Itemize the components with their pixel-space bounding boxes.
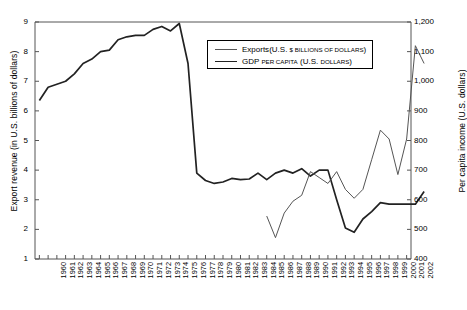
x-axis-tick-1970: 1970	[147, 262, 156, 278]
y-axis-left-tick-6: 6	[2, 106, 28, 115]
y-axis-right-tick-900: 900	[414, 106, 448, 115]
y-axis-left-tick-7: 7	[2, 76, 28, 85]
y-axis-left-tick-1: 1	[2, 254, 28, 263]
legend-swatch-gdp-per-capita	[215, 61, 237, 62]
chart-container: Export revenue (in U.S. billions of doll…	[0, 0, 467, 310]
y-axis-left-tick-5: 5	[2, 136, 28, 145]
legend-item-exports: Exports(U.S. $ billions of dollars)	[215, 44, 366, 55]
x-axis-tick-1962: 1962	[77, 262, 86, 278]
y-axis-left-tick-9: 9	[2, 17, 28, 26]
legend-label-exports: Exports(U.S. $ billions of dollars)	[242, 45, 366, 54]
y-axis-right-ticks	[407, 22, 411, 259]
y-axis-left-tick-8: 8	[2, 47, 28, 56]
x-axis-tick-1983: 1983	[260, 262, 269, 278]
y-axis-right-tick-1000: 1,000	[414, 76, 448, 85]
x-axis-tick-1995: 1995	[365, 262, 374, 278]
legend-label-gdp-per-capita: GDP per capita (U.S. dollars)	[242, 57, 352, 66]
x-axis-tick-1971: 1971	[156, 262, 165, 278]
legend-item-gdp-per-capita: GDP per capita (U.S. dollars)	[215, 56, 352, 67]
x-axis-tick-1960: 1960	[59, 262, 68, 278]
legend-swatch-exports	[215, 49, 237, 50]
x-axis-ticks	[39, 255, 406, 259]
x-axis-tick-1991: 1991	[330, 262, 339, 278]
x-axis-tick-1990: 1990	[322, 262, 331, 278]
x-axis-tick-1999: 1999	[400, 262, 409, 278]
x-axis-tick-1976: 1976	[199, 262, 208, 278]
y-axis-left-ticks	[35, 22, 39, 259]
x-axis-tick-1963: 1963	[86, 262, 95, 278]
x-axis-tick-1964: 1964	[94, 262, 103, 278]
x-axis-tick-1998: 1998	[392, 262, 401, 278]
x-axis-tick-1975: 1975	[190, 262, 199, 278]
x-axis-tick-1979: 1979	[225, 262, 234, 278]
y-axis-right-tick-800: 800	[414, 136, 448, 145]
x-axis-tick-1982: 1982	[252, 262, 261, 278]
x-axis-tick-1980: 1980	[234, 262, 243, 278]
x-axis-tick-1994: 1994	[357, 262, 366, 278]
y-axis-right-tick-500: 500	[414, 224, 448, 233]
y-axis-left-tick-3: 3	[2, 195, 28, 204]
y-axis-right-tick-600: 600	[414, 195, 448, 204]
x-axis-tick-1966: 1966	[112, 262, 121, 278]
y-axis-left-tick-4: 4	[2, 165, 28, 174]
y-axis-right-tick-1200: 1,200	[414, 17, 448, 26]
x-axis-tick-1986: 1986	[287, 262, 296, 278]
y-axis-left-tick-2: 2	[2, 224, 28, 233]
x-axis-tick-1974: 1974	[182, 262, 191, 278]
chart-legend: Exports(U.S. $ billions of dollars) GDP …	[207, 40, 373, 69]
x-axis-tick-2002: 2002	[427, 262, 436, 278]
x-axis-tick-1972: 1972	[164, 262, 173, 278]
y-axis-right-tick-700: 700	[414, 165, 448, 174]
y-axis-right-tick-1100: 1,100	[414, 47, 448, 56]
x-axis-tick-1978: 1978	[217, 262, 226, 278]
x-axis-tick-1987: 1987	[295, 262, 304, 278]
x-axis-tick-1967: 1967	[121, 262, 130, 278]
series-line-exports	[267, 46, 424, 238]
x-axis-tick-1968: 1968	[129, 262, 138, 278]
